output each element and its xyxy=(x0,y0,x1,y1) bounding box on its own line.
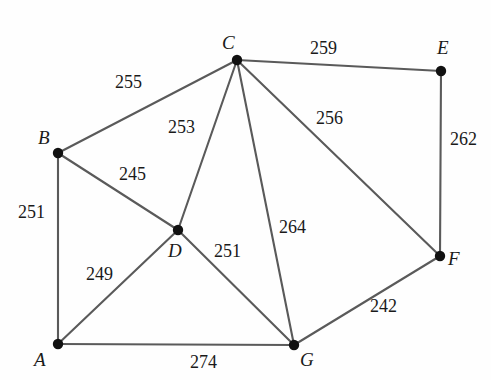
graph-edge-E-F xyxy=(440,71,441,256)
node-label-C: C xyxy=(222,33,235,52)
graph-edge-A-G xyxy=(58,344,294,345)
graph-edge-C-F xyxy=(237,60,440,256)
graph-edge-C-G xyxy=(237,60,294,345)
edge-weight-E-F: 262 xyxy=(450,130,477,148)
edge-weight-C-E: 259 xyxy=(310,39,337,57)
edge-weight-C-F: 256 xyxy=(316,109,343,127)
edge-weight-C-D: 253 xyxy=(168,118,195,136)
graph-node-B xyxy=(53,148,63,158)
edge-weight-A-B: 251 xyxy=(18,203,45,221)
edge-weight-D-G: 251 xyxy=(214,242,241,260)
graph-edge-C-E xyxy=(237,60,441,71)
edge-weight-B-D: 245 xyxy=(119,165,146,183)
graph-node-C xyxy=(232,55,242,65)
node-label-E: E xyxy=(437,38,449,57)
edge-weight-C-G: 264 xyxy=(279,218,306,236)
node-label-B: B xyxy=(38,128,50,147)
graph-node-A xyxy=(53,339,63,349)
graph-node-D xyxy=(173,225,183,235)
graph-node-G xyxy=(289,340,299,350)
edge-weight-A-G: 274 xyxy=(190,353,217,371)
graph-edge-F-G xyxy=(294,256,440,345)
edge-weight-A-D: 249 xyxy=(86,265,113,283)
graph-edge-B-D xyxy=(58,153,178,230)
node-label-G: G xyxy=(300,350,314,369)
node-label-D: D xyxy=(168,241,182,260)
graph-node-F xyxy=(435,251,445,261)
edge-weight-F-G: 242 xyxy=(370,297,397,315)
graph-node-E xyxy=(436,66,446,76)
graph-diagram: 251249274255245253259256264251262242 ABC… xyxy=(0,0,491,380)
node-label-A: A xyxy=(34,350,46,369)
node-label-F: F xyxy=(448,249,460,268)
edge-weight-B-C: 255 xyxy=(115,73,142,91)
graph-canvas xyxy=(0,0,491,380)
graph-edge-A-D xyxy=(58,230,178,344)
